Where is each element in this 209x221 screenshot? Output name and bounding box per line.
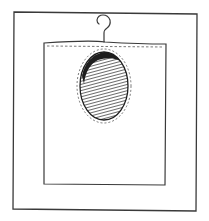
hook-icon: [97, 15, 110, 42]
figure-canvas: [0, 0, 209, 221]
